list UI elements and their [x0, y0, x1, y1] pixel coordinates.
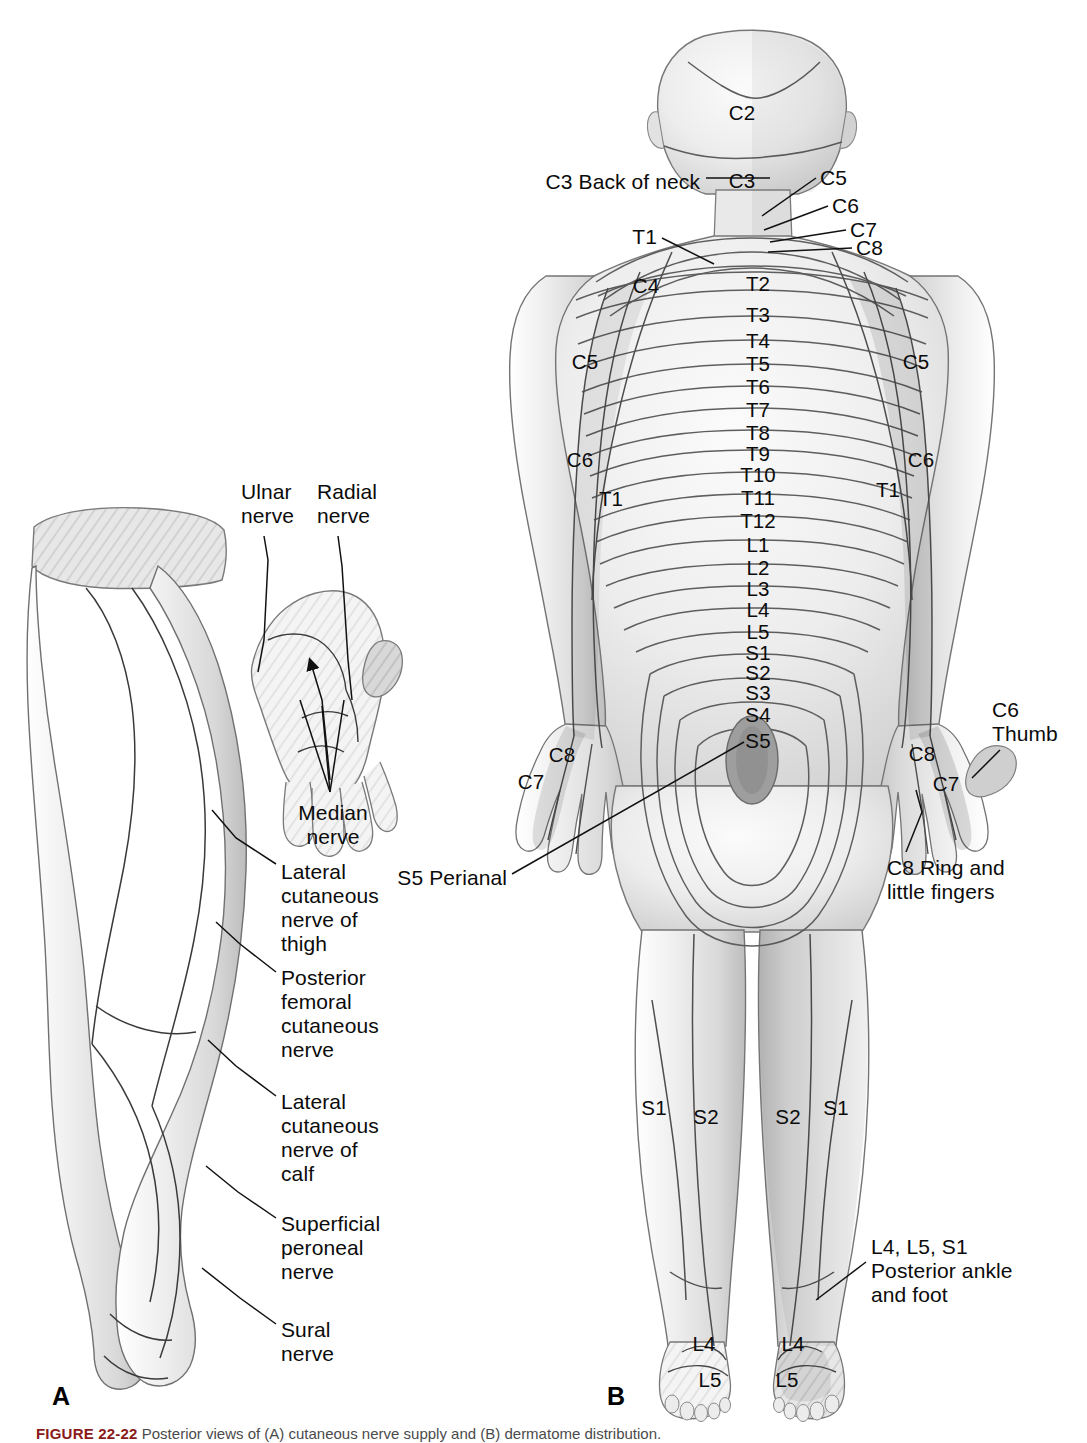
caption-body: Posterior views of (A) cutaneous nerve s… [138, 1425, 662, 1442]
anatomy-illustration [0, 0, 1087, 1443]
lateral-cut-calf-label: Lateral cutaneous nerve of calf [281, 1090, 379, 1186]
left-leg-s1: S1 [641, 1096, 666, 1120]
left-c7: C7 [518, 770, 544, 794]
segment-T3: T3 [746, 303, 770, 327]
segment-T4: T4 [746, 329, 770, 353]
right-c6: C6 [908, 448, 934, 472]
segment-C2: C2 [729, 101, 755, 125]
segment-T11: T11 [741, 486, 775, 510]
post-fem-cut-label: Posterior femoral cutaneous nerve [281, 966, 379, 1062]
right-c5: C5 [903, 350, 929, 374]
c8-ring-little-callout: C8 Ring and little fingers [887, 856, 1005, 904]
right-c8: C8 [909, 742, 935, 766]
panel-letter-a: A [52, 1382, 70, 1411]
segment-T7: T7 [746, 398, 770, 422]
sural-nerve-leader [202, 1268, 276, 1324]
left-c5: C5 [572, 350, 598, 374]
figure-stage: Ulnar nerveRadial nerveMedian nerveLater… [0, 0, 1087, 1443]
c6-thumb-callout: C6 Thumb [992, 698, 1058, 746]
shoulder-t1-callout: T1 [632, 225, 657, 249]
left-c6: C6 [567, 448, 593, 472]
left-c8: C8 [549, 743, 575, 767]
superficial-peroneal-leader [206, 1166, 276, 1218]
sural-nerve-label: Sural nerve [281, 1318, 334, 1366]
left-c4: C4 [633, 274, 659, 298]
segment-L1: L1 [746, 533, 769, 557]
caption-number: FIGURE 22-22 [36, 1425, 138, 1442]
panel-letter-b: B [607, 1382, 625, 1411]
left-leg-s2: S2 [693, 1105, 718, 1129]
c3-back-of-neck-callout: C3 Back of neck [546, 170, 700, 194]
segment-T2: T2 [746, 272, 770, 296]
radial-nerve-label: Radial nerve [317, 480, 377, 528]
segment-T12: T12 [740, 509, 776, 533]
segment-S5: S5 [745, 729, 770, 753]
superficial-peroneal-label: Superficial peroneal nerve [281, 1212, 380, 1284]
segment-C3: C3 [729, 169, 755, 193]
left-t1: T1 [599, 487, 623, 511]
right-t1: T1 [876, 478, 900, 502]
left-foot-l5: L5 [698, 1368, 721, 1392]
figure-caption: FIGURE 22-22 Posterior views of (A) cuta… [36, 1424, 1056, 1443]
segment-T6: T6 [746, 375, 770, 399]
segment-T5: T5 [746, 352, 770, 376]
ulnar-nerve-label: Ulnar nerve [241, 480, 294, 528]
segment-S4: S4 [745, 703, 770, 727]
right-c7: C7 [933, 772, 959, 796]
s5-perianal-callout: S5 Perianal [397, 866, 507, 890]
segment-S3: S3 [745, 681, 770, 705]
right-foot-l4: L4 [781, 1332, 804, 1356]
l4-l5-s1-ankle-callout: L4, L5, S1 Posterior ankle and foot [871, 1235, 1013, 1307]
right-leg-s1: S1 [823, 1096, 848, 1120]
lateral-cut-thigh-label: Lateral cutaneous nerve of thigh [281, 860, 379, 956]
neck-c5-callout: C5 [820, 166, 847, 190]
segment-T10: T10 [740, 463, 776, 487]
median-nerve-label: Median nerve [298, 801, 367, 849]
right-leg-s2: S2 [775, 1105, 800, 1129]
neck-c8-callout: C8 [856, 236, 883, 260]
left-foot-l4: L4 [692, 1332, 715, 1356]
segment-L4: L4 [746, 598, 769, 622]
right-foot-l5: L5 [775, 1368, 798, 1392]
neck-c6-callout: C6 [832, 194, 859, 218]
